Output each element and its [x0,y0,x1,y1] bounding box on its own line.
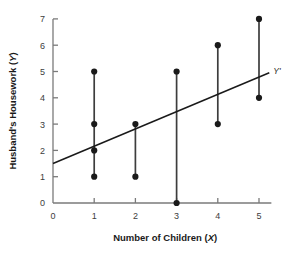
y-tick-label: 6 [40,41,45,51]
axes-group [53,19,271,203]
x-tick-label: 1 [92,211,97,221]
x-tick-labels: 012345 [50,211,261,221]
regression-line: Y' [53,66,281,163]
data-point [91,121,97,127]
regression-line-segment [53,73,269,164]
x-tick-label: 0 [50,211,55,221]
data-point [215,121,221,127]
data-point [91,174,97,180]
data-point [256,16,262,22]
y-tick-label: 3 [40,120,45,130]
data-point [91,68,97,74]
y-tick-label: 1 [40,172,45,182]
scatter-plot-figure: 01234567 012345 Y' Number of Children (X… [0,0,302,257]
x-tick-label: 5 [256,211,261,221]
ticks-group [53,19,259,203]
data-point [215,42,221,48]
data-point [174,68,180,74]
x-axis-title: Number of Children (X) [113,232,217,243]
x-tick-label: 3 [174,211,179,221]
y-tick-label: 4 [40,93,45,103]
y-tick-label: 0 [40,198,45,208]
data-point [132,174,138,180]
data-point [256,95,262,101]
y-axis-title: Husband's Housework (Y) [7,52,18,169]
axis-titles: Number of Children (X)Husband's Housewor… [7,52,217,243]
data-point [174,200,180,206]
regression-line-label: Y' [273,66,281,76]
y-tick-label: 7 [40,14,45,24]
x-tick-label: 4 [215,211,220,221]
y-tick-labels: 01234567 [40,14,45,208]
y-tick-label: 5 [40,67,45,77]
x-tick-label: 2 [133,211,138,221]
data-point [91,147,97,153]
data-point [132,121,138,127]
plot-canvas: 01234567 012345 Y' Number of Children (X… [0,0,302,257]
y-tick-label: 2 [40,146,45,156]
